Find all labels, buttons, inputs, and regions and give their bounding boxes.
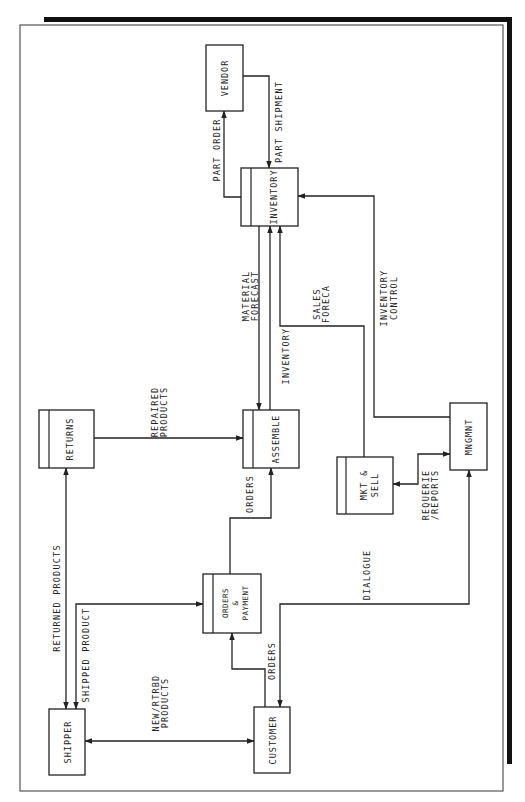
label-returned-products: RETURNED PRODUCTS [52, 544, 62, 651]
flow-orders-from-customer [232, 633, 265, 707]
entity-mkt-sell-label-1: MKT & [359, 470, 369, 501]
entity-inventory-label: INVENTORY [269, 169, 279, 224]
entity-orders-payment-label-3: PAYMENT [241, 585, 250, 620]
entity-vendor-label: VENDOR [220, 60, 230, 97]
label-inventory-control-2: CONTROL [389, 276, 399, 320]
label-inventory-control-1: INVENTORY [379, 270, 389, 327]
page-frame [20, 17, 512, 791]
label-dialogue: DIALOGUE [362, 550, 372, 601]
entity-shipper[interactable]: SHIPPER [49, 709, 85, 775]
label-inventory: INVENTORY [281, 328, 291, 385]
label-repaired-products-2: PRODUCTS [159, 387, 169, 438]
frame-shadow-right [507, 17, 512, 764]
entity-orders-payment[interactable]: ORDERS & PAYMENT [203, 574, 261, 633]
label-new-rtrbd-products-2: PRODUCTS [160, 678, 170, 729]
label-sales-forecast-2: FORECA [321, 285, 331, 323]
entity-returns-label: RETURNS [65, 418, 75, 461]
data-flow-diagram: VENDOR INVENTORY ASSEMBLE RETURNS MNGMNT… [0, 0, 525, 802]
entity-returns[interactable]: RETURNS [39, 410, 94, 468]
flow-shipped-product [76, 604, 203, 709]
entity-vendor[interactable]: VENDOR [206, 45, 243, 111]
frame-border [20, 25, 503, 791]
entity-assemble-label: ASSEMBLE [271, 415, 281, 464]
entity-mngmnt[interactable]: MNGMNT [450, 403, 487, 470]
entity-inventory[interactable]: INVENTORY [241, 168, 298, 226]
label-orders-to-assemble: ORDERS [245, 475, 255, 513]
label-shipped-product: SHIPPED PRODUCT [81, 608, 91, 703]
entity-customer[interactable]: CUSTOMER [254, 707, 290, 773]
label-part-shipment: PART SHIPMENT [274, 81, 284, 163]
entity-shipper-label: SHIPPER [63, 721, 73, 764]
entity-mngmnt-label: MNGMNT [464, 419, 474, 456]
flow-part-shipment [243, 76, 269, 168]
label-part-order: PART ORDER [212, 118, 222, 181]
label-requeries-reports-2: /REPORTS [430, 470, 440, 521]
entity-mkt-sell-label-2: SELL [370, 473, 380, 497]
entity-customer-label: CUSTOMER [268, 716, 278, 765]
frame-shadow-top [44, 17, 512, 22]
label-material-forecast-2: FORECAST [250, 271, 260, 322]
label-orders-from-customer: ORDERS [267, 642, 277, 680]
entity-orders-payment-label-2: & [231, 600, 240, 605]
entity-assemble[interactable]: ASSEMBLE [243, 410, 299, 468]
flow-part-order [224, 111, 241, 197]
entity-mkt-sell[interactable]: MKT & SELL [337, 457, 393, 514]
entity-orders-payment-label-1: ORDERS [221, 588, 230, 618]
